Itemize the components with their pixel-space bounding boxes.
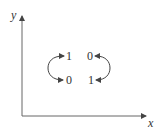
x-axis-label: x: [148, 117, 153, 128]
state-bottom-right: 1: [88, 74, 94, 86]
state-top-left: 1: [66, 50, 72, 62]
state-bottom-left: 0: [66, 74, 72, 86]
state-top-right: 0: [87, 50, 93, 62]
diagram-canvas: [0, 0, 165, 128]
left-curved-arrow: [48, 56, 63, 80]
right-curved-arrow: [96, 56, 110, 80]
y-axis-label: y: [11, 9, 16, 21]
